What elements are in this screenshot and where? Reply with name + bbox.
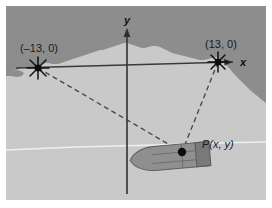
right-station-marker bbox=[208, 52, 228, 72]
ship-label: P(x, y) bbox=[202, 138, 234, 150]
left-station-label: (–13, 0) bbox=[20, 42, 58, 54]
diagram-plot-area: (–13, 0) (13, 0) x y P(x, y) bbox=[6, 6, 266, 200]
figure-container: (–13, 0) (13, 0) x y P(x, y) bbox=[0, 0, 272, 208]
right-station-label: (13, 0) bbox=[205, 38, 237, 50]
ship-point-marker bbox=[178, 148, 186, 156]
navigation-diagram-svg: (–13, 0) (13, 0) x y P(x, y) bbox=[6, 6, 266, 200]
y-axis-label: y bbox=[123, 14, 131, 26]
x-axis-label: x bbox=[239, 56, 247, 68]
left-station-marker bbox=[27, 57, 49, 79]
